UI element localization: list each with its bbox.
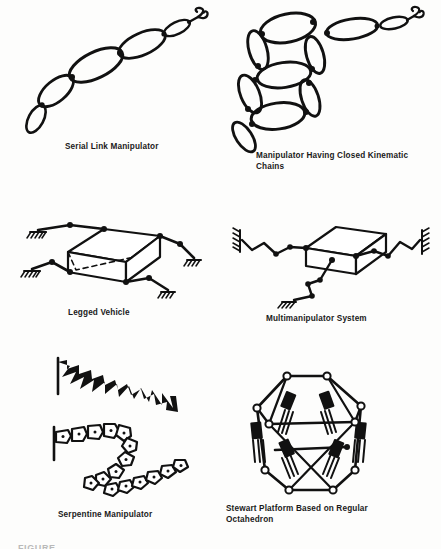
wall-support-left xyxy=(233,228,240,252)
ground-symbol xyxy=(184,260,201,266)
actuator xyxy=(278,391,297,434)
caption-legged-vehicle: Legged Vehicle xyxy=(68,307,130,318)
ground-symbol xyxy=(21,271,40,277)
serpentine-chain-lower xyxy=(54,424,188,496)
panel-serial-link-manipulator xyxy=(14,6,214,136)
actuator xyxy=(323,439,345,478)
manipulator-arm-left xyxy=(233,228,309,257)
gripper-icon xyxy=(407,7,424,20)
panel-legged-vehicle xyxy=(8,212,208,304)
ground-symbol xyxy=(27,232,46,238)
wall-support-right xyxy=(422,228,429,254)
caption-multimanipulator-system: Multimanipulator System xyxy=(266,313,367,324)
caption-stewart-platform: Stewart Platform Based on Regular Octahe… xyxy=(226,503,426,525)
actuator xyxy=(278,438,298,478)
panel-stewart-platform xyxy=(243,362,393,502)
panel-serpentine-manipulator xyxy=(10,352,205,502)
caption-serial-link-manipulator: Serial Link Manipulator xyxy=(65,141,159,152)
closed-chain-loops xyxy=(228,7,424,156)
wedge-band-upper xyxy=(58,360,178,412)
floor-support-bottom xyxy=(278,302,296,308)
serial-link-chain xyxy=(22,8,207,136)
caption-closed-kinematic-chains: Manipulator Having Closed Kinematic Chai… xyxy=(256,150,436,172)
segment-blocks-lower xyxy=(56,424,188,496)
gripper-icon xyxy=(189,8,208,22)
ground-symbol xyxy=(158,292,175,298)
serpentine-chain-upper xyxy=(58,358,178,412)
octahedron-frame xyxy=(257,376,361,490)
figure-page: Serial Link Manipulator xyxy=(0,0,441,549)
caption-serpentine-manipulator: Serpentine Manipulator xyxy=(58,509,152,520)
panel-multimanipulator-system xyxy=(228,212,433,312)
panel-closed-kinematic-chains xyxy=(222,6,437,146)
actuator xyxy=(319,390,336,434)
vehicle-body xyxy=(68,229,160,282)
figure-label: FIGURE xyxy=(18,543,56,549)
